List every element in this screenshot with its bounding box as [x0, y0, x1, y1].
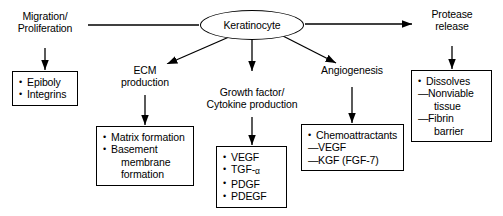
- list-item: TGF-α: [223, 163, 280, 177]
- list-item: Basement: [103, 143, 187, 155]
- list-item-text: TGF-: [231, 163, 255, 175]
- label-ecm-line-2: production: [104, 76, 186, 88]
- arrow-center-to-ecm: [167, 37, 229, 64]
- arrow-center-to-angiogenesis: [283, 36, 336, 63]
- list-item: Epiboly: [19, 76, 71, 88]
- list-item: Chemoattractants: [308, 129, 397, 141]
- list-item: KGF (FGF-7): [308, 154, 397, 166]
- box-protease-list: Dissolves Nonviable tissue Fibrin barrie…: [418, 75, 485, 137]
- label-protease-line-2: release: [412, 20, 492, 32]
- node-keratinocyte-label: Keratinocyte: [223, 20, 280, 31]
- label-growth-factor-line-2: Cytokine production: [190, 98, 314, 110]
- list-item: Nonviable: [418, 87, 485, 99]
- label-protease-line-1: Protease: [412, 8, 492, 20]
- box-ecm-outcomes[interactable]: Matrix formation Basement membrane forma…: [96, 126, 194, 186]
- greek-alpha-symbol: α: [255, 166, 260, 176]
- box-migration-list: Epiboly Integrins: [19, 76, 71, 101]
- label-angiogenesis-line-1: Angiogenesis: [312, 64, 392, 76]
- list-item: membrane: [103, 156, 187, 168]
- label-migration-line-1: Migration/: [2, 10, 88, 22]
- list-item: Integrins: [19, 88, 71, 100]
- list-item: Fibrin: [418, 112, 485, 124]
- list-item: PDGF: [223, 178, 280, 190]
- node-keratinocyte[interactable]: Keratinocyte: [200, 10, 304, 40]
- list-item: barrier: [418, 125, 485, 137]
- label-angiogenesis: Angiogenesis: [312, 64, 392, 76]
- list-item: VEGF: [223, 151, 280, 163]
- list-item: formation: [103, 168, 187, 180]
- label-growth-factor-line-1: Growth factor/: [190, 86, 314, 98]
- label-migration-line-2: Proliferation: [2, 22, 88, 34]
- label-growth-factor-production: Growth factor/ Cytokine production: [190, 86, 314, 110]
- diagram-canvas: Keratinocyte Migration/ Proliferation Ep…: [0, 0, 503, 216]
- label-migration-proliferation: Migration/ Proliferation: [2, 10, 88, 34]
- box-migration-outcomes[interactable]: Epiboly Integrins: [12, 71, 78, 106]
- box-growth-factor-list: VEGF TGF-α PDGF PDEGF: [223, 151, 280, 203]
- box-angiogenesis-outcomes[interactable]: Chemoattractants VEGF KGF (FGF-7): [301, 124, 404, 171]
- list-item: Matrix formation: [103, 131, 187, 143]
- label-protease-release: Protease release: [412, 8, 492, 32]
- box-angiogenesis-list: Chemoattractants VEGF KGF (FGF-7): [308, 129, 397, 166]
- label-ecm-production: ECM production: [104, 64, 186, 88]
- list-item: PDEGF: [223, 190, 280, 202]
- list-item: tissue: [418, 100, 485, 112]
- box-protease-outcomes[interactable]: Dissolves Nonviable tissue Fibrin barrie…: [411, 70, 492, 142]
- list-item: Dissolves: [418, 75, 485, 87]
- label-ecm-line-1: ECM: [104, 64, 186, 76]
- box-ecm-list: Matrix formation Basement membrane forma…: [103, 131, 187, 181]
- box-growth-factor-outcomes[interactable]: VEGF TGF-α PDGF PDEGF: [216, 146, 287, 208]
- list-item: VEGF: [308, 141, 397, 153]
